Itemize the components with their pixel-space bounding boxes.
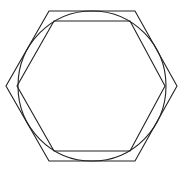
inscribed-circle <box>18 11 166 161</box>
outer-hexagon <box>6 11 177 161</box>
inner-hexagon <box>17 21 165 151</box>
geometry-diagram <box>0 0 185 172</box>
